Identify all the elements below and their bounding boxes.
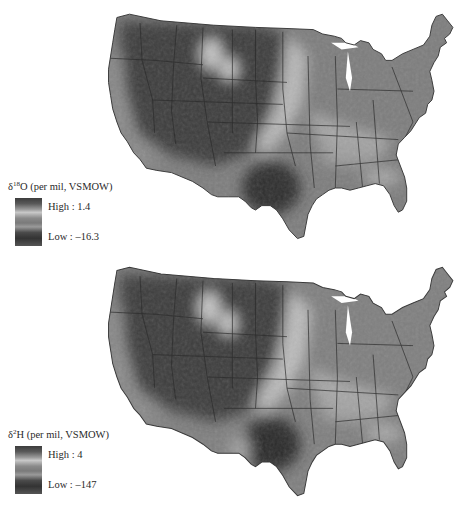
color-ramp-swatch	[15, 446, 42, 494]
isotope-element: H	[16, 429, 24, 440]
legend-body-d18o: High : 1.4 Low : –16.3	[8, 198, 113, 248]
legend-high-label: High : 1.4	[48, 201, 90, 212]
map-panel-d2h: δ2H (per mil, VSMOW) High : 4 Low : –147	[0, 255, 462, 515]
legend-d2h: δ2H (per mil, VSMOW) High : 4 Low : –147	[8, 429, 109, 496]
legend-title-d18o: δ18O (per mil, VSMOW)	[8, 181, 113, 192]
legend-body-d2h: High : 4 Low : –147	[8, 446, 109, 496]
legend-high-label: High : 4	[48, 449, 82, 460]
map-panel-d18o: δ18O (per mil, VSMOW) High : 1.4 Low : –…	[0, 0, 462, 250]
legend-units: (per mil, VSMOW)	[24, 429, 109, 440]
legend-low-label: Low : –147	[48, 479, 96, 490]
legend-units: (per mil, VSMOW)	[28, 181, 113, 192]
isotope-element: O	[20, 181, 28, 192]
isotope-mass: 18	[13, 180, 20, 188]
legend-title-d2h: δ2H (per mil, VSMOW)	[8, 429, 109, 440]
legend-d18o: δ18O (per mil, VSMOW) High : 1.4 Low : –…	[8, 181, 113, 248]
color-ramp-swatch	[15, 198, 42, 246]
legend-low-label: Low : –16.3	[48, 231, 99, 242]
